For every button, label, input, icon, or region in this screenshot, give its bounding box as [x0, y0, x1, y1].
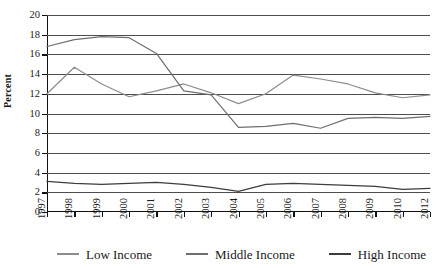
legend-item[interactable]: Middle Income — [186, 248, 295, 261]
y-tick-label: 18 — [30, 29, 41, 40]
y-tick-label: 4 — [35, 167, 40, 178]
x-tick-label: 1997 — [37, 198, 48, 219]
x-tick — [156, 212, 157, 217]
x-tick — [211, 212, 212, 217]
x-tick — [74, 212, 75, 217]
y-tick-label: 14 — [30, 69, 41, 80]
series-line — [47, 67, 430, 103]
y-tick-label: 6 — [35, 148, 40, 159]
legend-line-icon — [186, 253, 208, 255]
x-tick — [293, 212, 294, 217]
x-tick — [129, 212, 130, 217]
legend-line-icon — [329, 253, 351, 255]
y-tick-label: 8 — [35, 128, 40, 139]
line-chart: Percent 02468101214161820 19971998199920… — [0, 0, 440, 268]
y-tick-label: 10 — [30, 108, 41, 119]
x-tick — [375, 212, 376, 217]
plot-area: 02468101214161820 1997199819992000200120… — [47, 15, 430, 212]
series-line — [47, 181, 430, 191]
y-tick-label: 2 — [35, 187, 40, 198]
y-tick-label: 16 — [30, 49, 41, 60]
y-tick-label: 20 — [30, 10, 41, 21]
chart-legend: Low IncomeMiddle IncomeHigh Income — [47, 244, 436, 264]
series-line — [47, 37, 430, 129]
y-tick-label: 12 — [30, 89, 41, 100]
legend-item[interactable]: Low Income — [57, 248, 152, 261]
y-axis-title: Percent — [2, 74, 16, 108]
legend-label: Low Income — [86, 248, 152, 261]
legend-item[interactable]: High Income — [329, 248, 426, 261]
series-lines-group — [47, 15, 430, 212]
legend-label: Middle Income — [215, 248, 295, 261]
legend-label: High Income — [358, 248, 426, 261]
legend-line-icon — [57, 253, 79, 255]
